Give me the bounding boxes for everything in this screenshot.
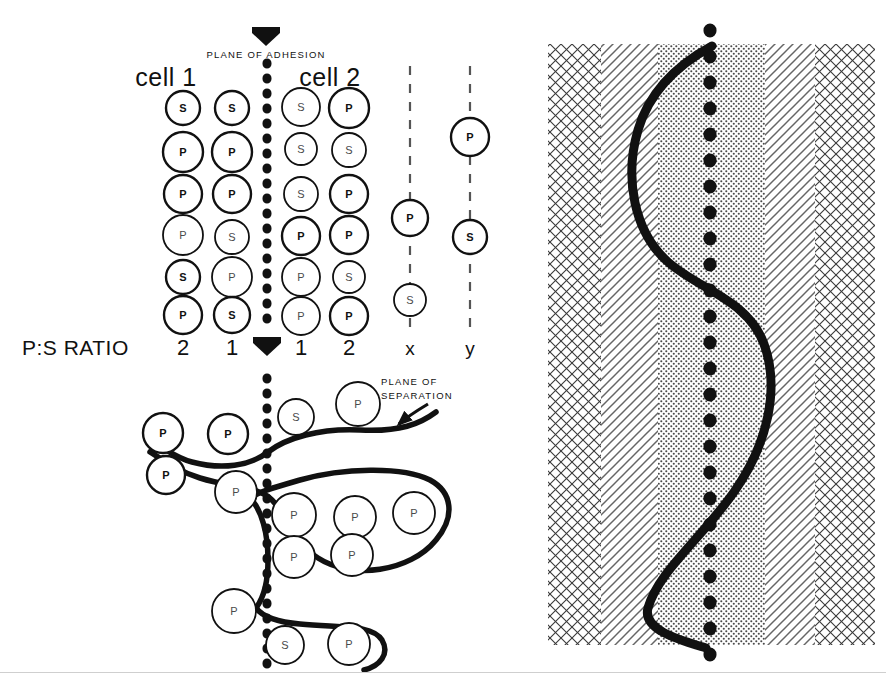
cell-glyph: P	[162, 469, 169, 481]
band-crosshatch-right	[815, 44, 875, 645]
cell-glyph: P	[345, 229, 352, 241]
cell2-col2-cell-s: S	[332, 133, 366, 167]
cell1-col2-cell-p: P	[212, 132, 252, 172]
plane-of-separation-label-line2: SEPARATION	[381, 390, 453, 401]
cell2-col2-cell-s: S	[333, 261, 365, 293]
cell-glyph: S	[345, 144, 352, 156]
cell-glyph: P	[345, 638, 352, 650]
cell1-col2-cell-p: P	[212, 257, 252, 297]
lower-cell-p: P	[208, 414, 248, 454]
cell-glyph: S	[292, 411, 299, 423]
cell-1-label: cell 1	[135, 63, 196, 91]
cell1-col2-cell-s: S	[215, 91, 249, 125]
ratio-value-cell1-col1: 2	[177, 335, 189, 360]
cell-glyph: S	[297, 143, 304, 155]
cell-glyph: P	[232, 486, 239, 498]
cell-glyph: S	[228, 231, 235, 243]
ps-ratio-values: 2112xy	[177, 335, 475, 360]
plane-of-adhesion-label: PLANE OF ADHESION	[206, 49, 325, 60]
cell-glyph: P	[297, 230, 304, 242]
figure-bottom-edge	[0, 672, 886, 673]
figure-root: PLANE OF ADHESION cell 1 cell 2 SPPPSPSP…	[0, 0, 886, 692]
cell-glyph: S	[297, 101, 304, 113]
cell-glyph: P	[228, 188, 235, 200]
plane-of-separation-label-line1: PLANE OF	[381, 376, 438, 387]
band-diagonal-left	[601, 44, 658, 645]
cell-glyph: P	[290, 509, 297, 521]
cell2-col2-cell-p: P	[329, 88, 369, 128]
cell1-col1-cell-s: S	[166, 260, 200, 294]
lower-cell-p: P	[143, 413, 183, 453]
cell-glyph: S	[345, 271, 352, 283]
cell2-col1-cell-p: P	[282, 258, 320, 296]
lower-cell-p: P	[393, 492, 435, 534]
cell2-col2-cell-p: P	[330, 175, 368, 213]
cell-glyph: P	[297, 271, 304, 283]
cell-glyph: P	[179, 309, 186, 321]
cell-glyph: P	[230, 605, 237, 617]
upper-panel: PLANE OF ADHESION cell 1 cell 2 SPPPSPSP…	[22, 27, 489, 360]
cell1-col1-cell-p: P	[163, 132, 203, 172]
cell2-col1-cell-s: S	[282, 88, 320, 126]
cell-glyph: P	[228, 271, 235, 283]
cell2-col1-cell-s: S	[284, 177, 318, 211]
cell-glyph: P	[228, 146, 235, 158]
plane-of-adhesion-arrow-bottom	[253, 337, 281, 356]
ratio-value-column-x: x	[405, 338, 415, 359]
cell2-col1-cell-p: P	[282, 297, 320, 335]
column-x-cell-s: S	[394, 284, 426, 316]
lower-cell-p: P	[212, 589, 256, 633]
cell1-col2-cell-p: P	[213, 175, 251, 213]
cell-glyph: P	[345, 310, 352, 322]
ratio-value-cell1-col2: 1	[226, 335, 238, 360]
lower-cell-p: P	[334, 496, 376, 538]
band-crosshatch-left	[548, 44, 601, 645]
band-diagonal-right	[765, 44, 815, 645]
lower-cell-p: P	[273, 536, 315, 578]
cell-glyph: P	[406, 212, 413, 224]
cell-glyph: S	[179, 102, 186, 114]
cell-glyph: P	[466, 131, 473, 143]
cell2-col1-cell-s: S	[285, 133, 317, 165]
cell-glyph: S	[466, 231, 473, 243]
column-y-cell-p: P	[451, 118, 489, 156]
cell2-col2-cell-p: P	[330, 297, 368, 335]
lower-cell-p: P	[272, 493, 316, 537]
cell-glyph: P	[351, 511, 358, 523]
lower-cell-p: P	[336, 382, 380, 426]
cell2-col1-cell-p: P	[282, 217, 320, 255]
figure-canvas: PLANE OF ADHESION cell 1 cell 2 SPPPSPSP…	[0, 0, 886, 692]
cell-glyph: S	[228, 102, 235, 114]
upper-panel-cell-circles: SPPPSPSPPSPSSSSPPPPSPPSPPSPS	[163, 88, 489, 335]
cell1-col2-cell-s: S	[215, 220, 249, 254]
cell-glyph: P	[179, 229, 186, 241]
cell-2-label: cell 2	[299, 63, 360, 91]
cell-glyph: P	[345, 102, 352, 114]
cell-glyph: P	[345, 188, 352, 200]
lower-cell-p: P	[328, 623, 370, 665]
cell1-col1-cell-p: P	[163, 215, 203, 255]
cell-glyph: P	[410, 507, 417, 519]
lower-cell-s: S	[266, 626, 304, 664]
ratio-value-cell2-col2: 2	[343, 335, 355, 360]
cell-glyph: S	[228, 309, 235, 321]
cell-glyph: P	[224, 428, 231, 440]
cell-glyph: P	[179, 188, 186, 200]
column-x-cell-p: P	[392, 200, 428, 236]
cell-glyph: P	[297, 310, 304, 322]
cell-glyph: S	[281, 639, 288, 651]
column-y-cell-s: S	[453, 220, 487, 254]
cell-glyph: P	[348, 549, 355, 561]
cell1-col1-cell-s: S	[166, 91, 200, 125]
cell-glyph: P	[290, 551, 297, 563]
cell-glyph: S	[406, 294, 413, 306]
ratio-value-cell2-col1: 1	[295, 335, 307, 360]
lower-cell-p: P	[215, 471, 257, 513]
cell-glyph: P	[159, 427, 166, 439]
cell-glyph: S	[179, 271, 186, 283]
ps-ratio-label: P:S RATIO	[22, 336, 129, 359]
lower-cell-s: S	[278, 399, 314, 435]
cell1-col1-cell-p: P	[164, 296, 202, 334]
cell1-col2-cell-s: S	[214, 297, 250, 333]
ratio-value-column-y: y	[465, 338, 475, 359]
